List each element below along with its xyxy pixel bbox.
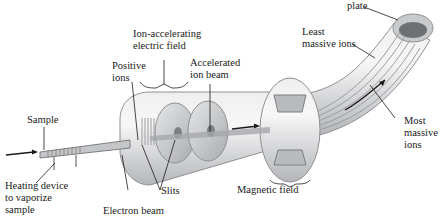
magnet-pole-bottom (274, 150, 306, 165)
label-ion-accelerating-2: electric field (133, 40, 186, 52)
label-ion-accelerating-1: Ion-accelerating (133, 28, 201, 40)
input-arrow (6, 152, 34, 155)
magnet-pole-top (274, 95, 306, 112)
label-accelerated-1: Accelerated (190, 57, 240, 69)
label-heating-2: to vaporize (5, 192, 52, 204)
label-slits: Slits (161, 185, 180, 197)
label-least-massive-1: Least (302, 26, 325, 38)
label-least-massive-2: massive ions (302, 38, 356, 50)
label-positive-2: ions (112, 72, 130, 84)
label-magnetic-field: Magnetic field (237, 184, 299, 196)
label-sample: Sample (27, 114, 59, 126)
label-electron-beam: Electron beam (103, 205, 164, 217)
label-heating-3: sample (5, 204, 35, 216)
label-heating-1: Heating device (5, 180, 68, 192)
label-plate: plate (347, 0, 367, 12)
label-accelerated-2: ion beam (190, 69, 229, 81)
label-most-massive-3: ions (404, 139, 422, 151)
sample-probe (40, 140, 130, 158)
label-most-massive-1: Most (404, 115, 426, 127)
label-most-massive-2: massive (404, 127, 438, 139)
label-positive-1: Positive (112, 60, 146, 72)
